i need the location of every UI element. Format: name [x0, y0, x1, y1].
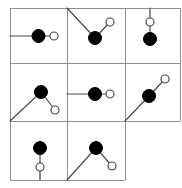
cell-r1c0	[10, 86, 59, 122]
node-link-grid-svg	[0, 0, 182, 188]
cell-r2c1	[67, 142, 116, 181]
cell-r0c1	[67, 8, 114, 45]
cell-r0c2	[144, 8, 157, 46]
diagram-canvas	[0, 0, 182, 188]
cell-r1c1	[67, 88, 114, 101]
open-node-r0c1	[106, 18, 114, 26]
filled-node-r2c1	[90, 142, 103, 155]
cell-r2c0	[34, 142, 47, 181]
filled-node-r0c1	[89, 32, 102, 45]
open-node-r2c0	[36, 163, 44, 171]
filled-node-r0c0	[32, 30, 45, 43]
filled-node-r1c1	[89, 88, 102, 101]
open-node-r1c2	[161, 75, 169, 83]
filled-node-r1c0	[35, 86, 48, 99]
open-node-r2c1	[108, 162, 116, 170]
filled-node-r1c2	[143, 90, 156, 103]
open-node-r0c2	[146, 18, 154, 26]
open-node-r1c0	[51, 106, 59, 114]
cell-r1c2	[125, 75, 169, 121]
open-node-r1c1	[106, 90, 114, 98]
cells-layer	[10, 8, 169, 180]
cell-r0c0	[10, 30, 58, 43]
open-node-r0c0	[50, 32, 58, 40]
filled-node-r0c2	[144, 33, 157, 46]
filled-node-r2c0	[34, 142, 47, 155]
